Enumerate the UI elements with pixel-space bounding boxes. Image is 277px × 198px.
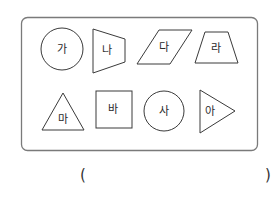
answer-open-paren: (	[80, 168, 86, 183]
shape-label: 아	[205, 105, 215, 118]
answer-close-paren: )	[265, 168, 271, 183]
shape-label: 가	[57, 43, 67, 56]
shape-label: 바	[108, 103, 118, 116]
shape-label: 마	[58, 113, 68, 126]
shape-label: 다	[159, 41, 169, 54]
shape-label: 라	[211, 42, 221, 55]
shape-label: 나	[102, 44, 112, 57]
shape-sa-circle: 사	[144, 91, 184, 131]
shape-figure: 가 나 다 라 마 바 사 아	[0, 0, 277, 198]
shape-ga-circle: 가	[41, 28, 83, 70]
shape-ba-square: 바	[96, 91, 132, 128]
shape-label: 사	[159, 105, 169, 118]
